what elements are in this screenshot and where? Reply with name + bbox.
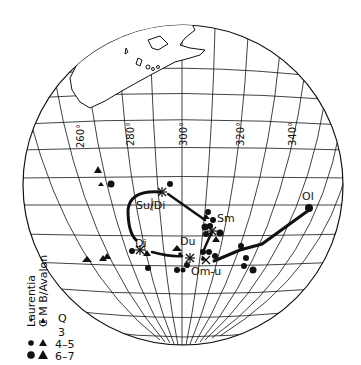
svg-text:280°: 280° — [125, 122, 136, 146]
label-di: Di — [135, 237, 147, 250]
label-sm: Sm — [217, 212, 235, 225]
svg-text:300°: 300° — [178, 122, 189, 146]
label-du: Du — [180, 235, 195, 248]
label-ol: Ol — [302, 190, 314, 203]
globe-outline — [23, 25, 343, 345]
label-su-di: Su/Di — [136, 199, 165, 212]
asterisk-icon — [185, 253, 195, 263]
paleomagnetic-globe-map: 260° 280° 300° 320° 340° — [0, 0, 361, 365]
label-om-u: Om-u — [191, 265, 221, 278]
svg-text:340°: 340° — [287, 122, 298, 146]
asterisk-icon — [157, 187, 167, 197]
svg-text:320°: 320° — [235, 122, 246, 146]
svg-text:260°: 260° — [75, 124, 86, 148]
